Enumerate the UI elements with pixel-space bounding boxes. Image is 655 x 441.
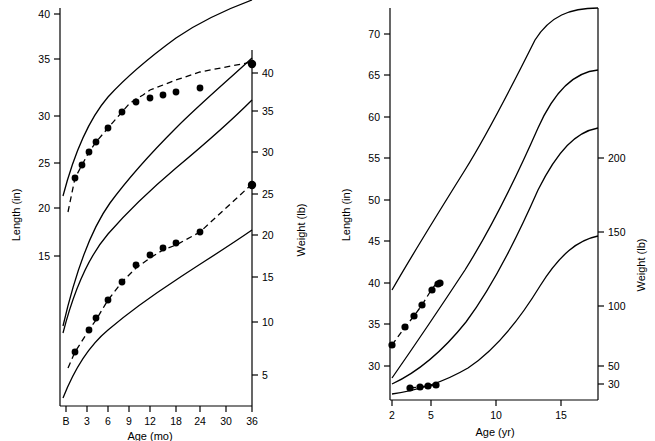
tick-label: 45	[368, 235, 380, 247]
tick-label: 55	[368, 152, 380, 164]
x-axis-title: Age (yr)	[475, 426, 514, 438]
tick-label: 35	[38, 53, 50, 65]
tick-label: 12	[144, 415, 156, 427]
data-point	[133, 262, 140, 269]
data-point	[436, 279, 443, 286]
tick-label: 2	[389, 409, 395, 421]
patient-weight-line	[68, 184, 252, 368]
tick-label: 3	[84, 415, 90, 427]
growth-chart-figure: 40 35 30 25 20 15 40 35 30	[0, 0, 655, 441]
tick-label: 9	[126, 415, 132, 427]
data-point	[197, 85, 204, 92]
tick-label: 18	[170, 415, 182, 427]
tick-label: 40	[368, 277, 380, 289]
data-point	[248, 181, 256, 189]
tick-label: 20	[262, 229, 274, 241]
data-point	[133, 99, 140, 106]
x-axis-title: Age (mo)	[127, 430, 172, 441]
tick-label: 70	[368, 28, 380, 40]
data-point	[147, 252, 154, 259]
tick-label: 36	[246, 415, 258, 427]
right-y-axis-title: Weight (lb)	[635, 239, 647, 292]
right-y-tick-labels: 40 35 30 25 20 15 10 5	[262, 67, 274, 381]
tick-label: B	[62, 415, 69, 427]
tick-label: 200	[608, 152, 626, 164]
tick-label: 24	[194, 415, 206, 427]
right-y-axis-title: Weight (lb)	[295, 204, 307, 257]
tick-label: 15	[38, 250, 50, 262]
length-reference-upper-curve	[63, 0, 252, 196]
data-point	[428, 286, 435, 293]
data-point	[416, 383, 423, 390]
tick-label: 5	[428, 409, 434, 421]
tick-label: 10	[262, 316, 274, 328]
data-point	[424, 382, 431, 389]
patient-length-line	[68, 62, 252, 212]
data-point	[105, 125, 112, 132]
patient-length-markers	[72, 60, 257, 182]
data-point	[248, 60, 256, 68]
x-tick-labels: B 3 6 9 12 18 24 30 36	[62, 415, 258, 427]
data-point	[93, 139, 100, 146]
data-point	[197, 229, 204, 236]
tick-label: 50	[368, 194, 380, 206]
left-y-tick-labels: 70 65 60 55 50 45 40 35 30	[368, 28, 380, 372]
tick-label: 65	[368, 69, 380, 81]
data-point	[173, 240, 180, 247]
panel-child-growth: 70 65 60 55 50 45 40 35 30 200 150	[330, 0, 655, 441]
data-point	[93, 315, 100, 322]
left-y-tick-labels: 40 35 30 25 20 15	[38, 8, 50, 262]
data-point	[418, 301, 425, 308]
tick-label: 30	[220, 415, 232, 427]
x-tick-labels: 2 5 10 15	[389, 409, 567, 421]
data-point	[160, 245, 167, 252]
tick-label: 50	[608, 360, 620, 372]
tick-label: 60	[368, 111, 380, 123]
tick-label: 30	[368, 360, 380, 372]
tick-label: 40	[262, 67, 274, 79]
data-point	[119, 279, 126, 286]
weight-reference-lower-curve	[392, 236, 598, 394]
tick-label: 30	[608, 378, 620, 390]
infant-growth-plot: 40 35 30 25 20 15 40 35 30	[0, 0, 330, 441]
left-y-axis-title: Length (in)	[10, 189, 22, 242]
data-point	[72, 175, 79, 182]
data-point	[160, 92, 167, 99]
data-point	[72, 349, 79, 356]
tick-label: 30	[262, 146, 274, 158]
tick-label: 150	[608, 226, 626, 238]
weight-reference-upper-curve	[63, 100, 252, 333]
tick-label: 15	[262, 271, 274, 283]
tick-label: 100	[608, 300, 626, 312]
panel-infant-growth: 40 35 30 25 20 15 40 35 30	[0, 0, 330, 441]
child-growth-plot: 70 65 60 55 50 45 40 35 30 200 150	[330, 0, 655, 441]
right-y-tick-labels: 200 150 100 50 30	[608, 152, 626, 390]
data-point	[119, 109, 126, 116]
data-point	[432, 381, 439, 388]
left-y-axis-title: Length (in)	[340, 189, 352, 242]
data-point	[173, 89, 180, 96]
length-reference-upper-curve	[392, 8, 598, 290]
data-point	[86, 149, 93, 156]
tick-label: 25	[262, 188, 274, 200]
tick-label: 15	[555, 409, 567, 421]
tick-label: 20	[38, 202, 50, 214]
data-point	[86, 327, 93, 334]
data-point	[147, 95, 154, 102]
data-point	[105, 297, 112, 304]
data-point	[410, 312, 417, 319]
weight-reference-lower-curve	[63, 230, 252, 398]
data-point	[401, 323, 408, 330]
data-point	[79, 162, 86, 169]
tick-label: 30	[38, 110, 50, 122]
tick-label: 40	[38, 8, 50, 20]
length-reference-lower-curve	[63, 58, 252, 326]
data-point	[406, 384, 413, 391]
tick-label: 5	[262, 369, 268, 381]
tick-label: 25	[38, 157, 50, 169]
patient-weight-markers	[72, 181, 257, 356]
tick-label: 10	[490, 409, 502, 421]
tick-label: 35	[262, 105, 274, 117]
tick-label: 6	[105, 415, 111, 427]
tick-label: 35	[368, 318, 380, 330]
